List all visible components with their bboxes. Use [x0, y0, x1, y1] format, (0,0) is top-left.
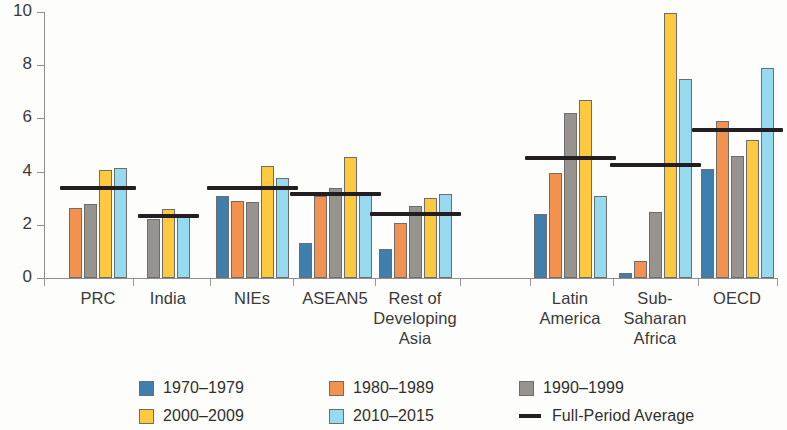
bar	[746, 140, 759, 278]
bar	[344, 157, 357, 278]
x-tick	[460, 279, 461, 286]
x-axis-label-rest-of-developing-asia: Rest ofDevelopingAsia	[355, 288, 475, 348]
legend-swatch-icon	[329, 409, 344, 424]
legend-label: 2010–2015	[353, 407, 434, 425]
bar	[439, 194, 452, 278]
bar	[216, 196, 229, 278]
bar	[329, 188, 342, 278]
legend-swatch-icon	[519, 381, 534, 396]
legend-item: 2010–2015	[329, 407, 519, 425]
bar-chart: 0246810 PRCIndiaNIEsASEAN5Rest ofDevelop…	[0, 0, 787, 430]
legend-swatch-icon	[139, 381, 154, 396]
x-tick	[133, 279, 134, 286]
bar	[761, 68, 774, 278]
bar	[177, 217, 190, 278]
bar	[84, 204, 97, 278]
bar	[619, 273, 632, 278]
full-period-average-line	[290, 192, 381, 196]
bar	[634, 261, 647, 278]
full-period-average-line	[207, 186, 298, 190]
legend-label: Full-Period Average	[552, 407, 694, 425]
bar	[299, 243, 312, 278]
x-axis-line	[44, 278, 778, 279]
y-tick-label: 2	[0, 214, 32, 234]
x-tick	[613, 279, 614, 286]
bar	[246, 202, 259, 278]
legend-swatch-icon	[139, 409, 154, 424]
legend-label: 1970–1979	[163, 379, 244, 397]
full-period-average-line	[60, 186, 136, 190]
bar	[664, 13, 677, 278]
bar	[424, 198, 437, 278]
bar	[649, 212, 662, 279]
legend-item: 2000–2009	[139, 407, 329, 425]
legend-item: 1980–1989	[329, 379, 519, 397]
chart-legend: 1970–19791980–19891990–19992000–20092010…	[139, 374, 739, 430]
bar	[579, 100, 592, 278]
bar	[701, 169, 714, 278]
plot-area	[44, 12, 778, 278]
bar	[162, 209, 175, 278]
x-tick	[210, 279, 211, 286]
bar	[716, 121, 729, 278]
bar	[359, 192, 372, 278]
bar	[147, 219, 160, 278]
full-period-average-line	[370, 212, 461, 216]
bar	[534, 214, 547, 278]
bar	[69, 208, 82, 278]
x-tick	[375, 279, 376, 286]
x-axis-label-oecd: OECD	[677, 288, 787, 308]
legend-item: 1970–1979	[139, 379, 329, 397]
bar	[564, 113, 577, 278]
y-tick-label: 4	[0, 161, 32, 181]
bar	[314, 196, 327, 278]
x-tick	[777, 279, 778, 286]
legend-label: 1980–1989	[353, 379, 434, 397]
bar	[549, 173, 562, 278]
legend-label: 2000–2009	[163, 407, 244, 425]
full-period-average-line	[610, 163, 701, 167]
legend-label: 1990–1999	[543, 379, 624, 397]
bar	[114, 168, 127, 278]
legend-item: 1990–1999	[519, 379, 739, 397]
x-tick	[44, 279, 45, 286]
bar	[231, 201, 244, 278]
bar	[679, 79, 692, 279]
bar	[261, 166, 274, 278]
y-tick-label: 0	[0, 267, 32, 287]
full-period-average-line	[138, 214, 199, 218]
bar	[394, 223, 407, 278]
x-tick	[293, 279, 294, 286]
x-tick	[530, 279, 531, 286]
full-period-average-line	[692, 128, 783, 132]
legend-line-marker-icon	[519, 414, 541, 418]
full-period-average-line	[525, 156, 616, 160]
bar	[379, 249, 392, 278]
legend-item: Full-Period Average	[519, 407, 739, 425]
bar	[409, 206, 422, 278]
bar	[731, 156, 744, 278]
x-tick	[698, 279, 699, 286]
y-tick-label: 10	[0, 1, 32, 21]
y-tick-label: 6	[0, 107, 32, 127]
bar	[276, 178, 289, 278]
y-tick-label: 8	[0, 54, 32, 74]
legend-swatch-icon	[329, 381, 344, 396]
bar	[594, 196, 607, 278]
